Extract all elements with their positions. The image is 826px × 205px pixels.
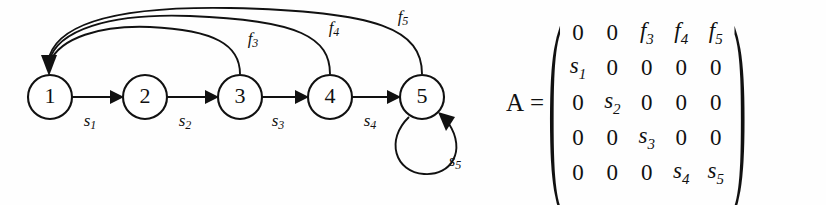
matrix-cell-r5-c5: s5: [699, 155, 733, 190]
edge-label-f4: f4: [329, 18, 340, 39]
equals-sign: =: [530, 89, 545, 116]
matrix-cell-r2-c2: 0: [595, 50, 629, 85]
edge-label-s4: s4: [364, 111, 377, 132]
matrix-expression: A = ( 00f3f4f5s100000s200000s300000s4s5 …: [500, 0, 826, 205]
matrix-row: 00s300: [561, 120, 733, 155]
figure-container: 1 2 3 4 5 s1 s2 s3 s4: [0, 0, 826, 205]
arrowhead-into-node-1: [41, 55, 57, 76]
matrix-row: s10000: [561, 50, 733, 85]
matrix-cell-r3-c1: 0: [561, 85, 595, 120]
matrix-grid: 00f3f4f5s100000s200000s300000s4s5: [561, 15, 733, 190]
matrix-name-label: A: [506, 89, 525, 116]
edge-label-f3: f3: [248, 29, 259, 50]
matrix-cell-r5-c4: s4: [664, 155, 698, 190]
arrowhead-s4: [387, 90, 401, 104]
matrix-cell-r2-c3: 0: [630, 50, 664, 85]
node-4-label: 4: [325, 83, 336, 108]
matrix-row: 00f3f4f5: [561, 15, 733, 50]
matrix-cell-r5-c1: 0: [561, 155, 595, 190]
node-5[interactable]: 5: [400, 75, 444, 119]
matrix-body: 00f3f4f5s100000s200000s300000s4s5: [561, 15, 733, 190]
matrix-row: 0s2000: [561, 85, 733, 120]
arc-f5: [48, 8, 422, 74]
matrix-cell-r1-c4: f4: [664, 15, 698, 50]
matrix-cell-r1-c5: f5: [699, 15, 733, 50]
arrowhead-s2: [205, 90, 219, 104]
node-3-label: 3: [235, 83, 246, 108]
edge-label-f5: f5: [398, 7, 409, 28]
matrix-row: 000s4s5: [561, 155, 733, 190]
matrix-cell-r4-c5: 0: [699, 120, 733, 155]
fecundity-arcs: [41, 8, 422, 76]
matrix-cell-r1-c3: f3: [630, 15, 664, 50]
matrix-cell-r3-c5: 0: [699, 85, 733, 120]
matrix-cell-r5-c2: 0: [595, 155, 629, 190]
self-loop-node-5: [396, 112, 457, 174]
edge-label-s3: s3: [272, 111, 285, 132]
matrix-cell-r1-c2: 0: [595, 15, 629, 50]
node-2-label: 2: [140, 83, 151, 108]
arrowhead-s3: [295, 90, 309, 104]
matrix-cell-r5-c3: 0: [630, 155, 664, 190]
matrix-name-and-equals: A =: [506, 89, 545, 117]
node-2[interactable]: 2: [123, 75, 167, 119]
matrix-cell-r2-c5: 0: [699, 50, 733, 85]
node-5-label: 5: [417, 83, 428, 108]
edge-label-s5: s5: [449, 151, 462, 172]
node-1[interactable]: 1: [28, 75, 72, 119]
state-transition-diagram: 1 2 3 4 5 s1 s2 s3 s4: [0, 0, 500, 205]
matrix-cell-r1-c1: 0: [561, 15, 595, 50]
edge-label-s2: s2: [179, 111, 192, 132]
matrix-cell-r4-c4: 0: [664, 120, 698, 155]
matrix-cell-r3-c3: 0: [630, 85, 664, 120]
node-3[interactable]: 3: [218, 75, 262, 119]
matrix-cell-r4-c2: 0: [595, 120, 629, 155]
matrix-cell-r4-c1: 0: [561, 120, 595, 155]
matrix-cell-r4-c3: s3: [630, 120, 664, 155]
arrowhead-s1: [110, 90, 124, 104]
matrix-cell-r3-c4: 0: [664, 85, 698, 120]
edge-label-s1: s1: [84, 111, 97, 132]
arc-f4: [49, 16, 330, 74]
node-1-label: 1: [45, 83, 56, 108]
node-4[interactable]: 4: [308, 75, 352, 119]
matrix-cell-r3-c2: s2: [595, 85, 629, 120]
matrix-cell-r2-c1: s1: [561, 50, 595, 85]
arc-f3: [50, 27, 240, 74]
matrix-cell-r2-c4: 0: [664, 50, 698, 85]
